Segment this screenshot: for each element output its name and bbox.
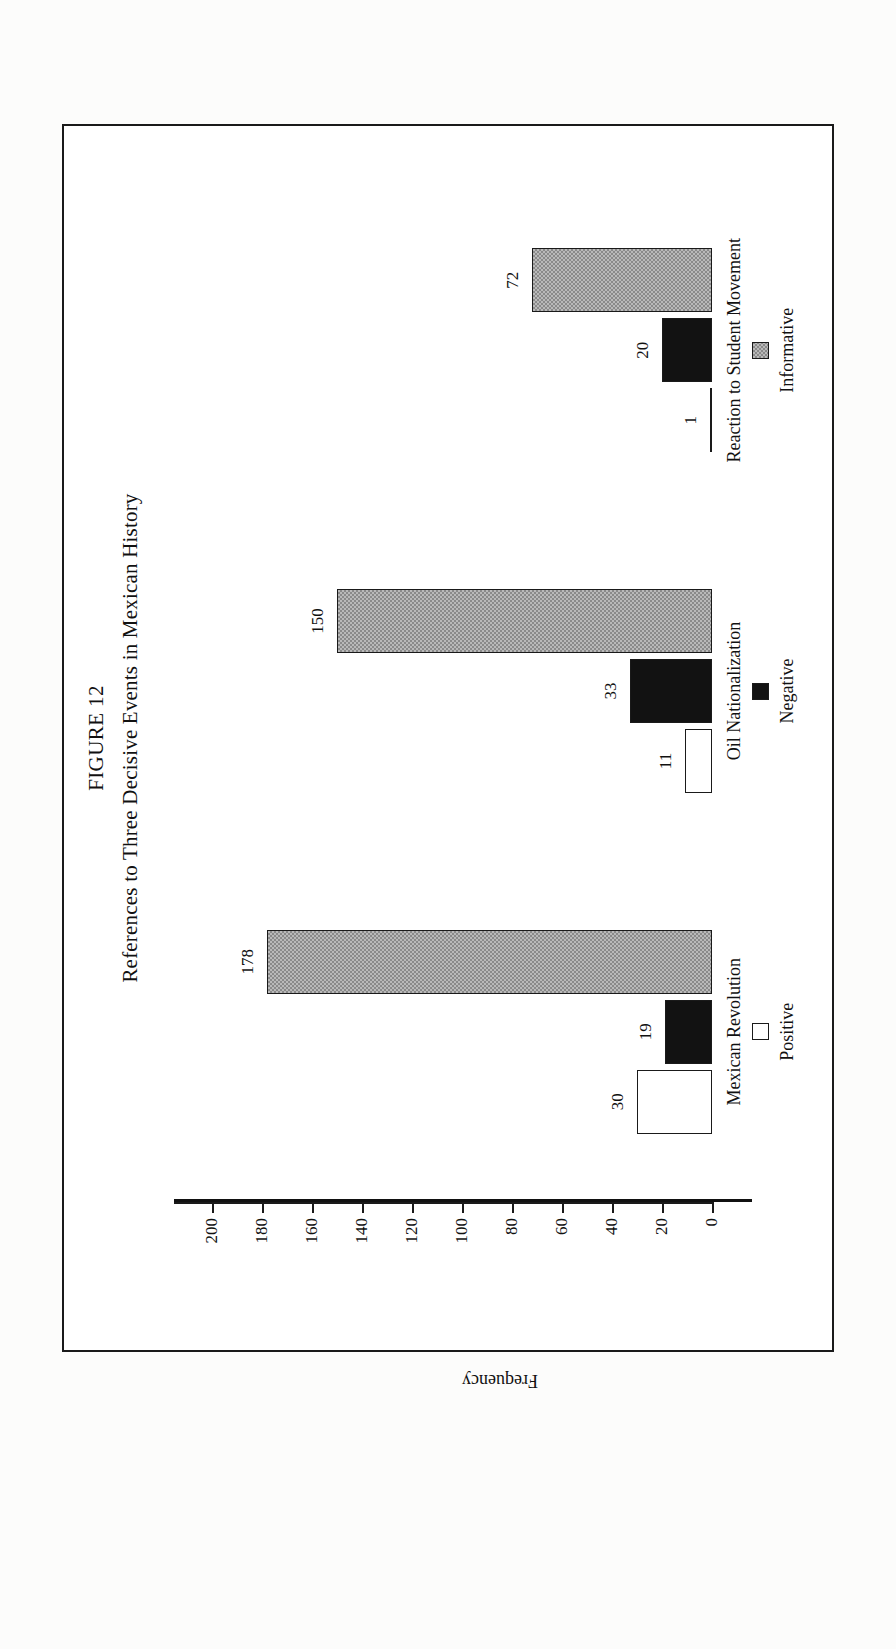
bar-value-label: 30 — [608, 1093, 628, 1110]
axis-tick — [212, 1202, 214, 1213]
figure-number: FIGURE 12 — [84, 124, 109, 1352]
axis-tick — [512, 1202, 514, 1213]
bar-group: 12072Reaction to Student Movement — [212, 180, 712, 521]
axis-tick-label: 140 — [352, 1218, 372, 1244]
legend-label: Positive — [777, 861, 798, 1202]
bar-positive-1: 30 — [637, 1070, 712, 1134]
bar-informative-3: 72 — [532, 248, 712, 312]
bar-positive-3: 1 — [710, 388, 713, 452]
bar-value-label: 11 — [656, 753, 676, 769]
bar-value-label: 178 — [238, 949, 258, 975]
legend-label: Informative — [777, 180, 798, 521]
axis-tick — [312, 1202, 314, 1213]
legend-label: Negative — [777, 521, 798, 862]
axis-tick — [412, 1202, 414, 1213]
bar-value-label: 72 — [503, 272, 523, 289]
bar-value-label: 19 — [636, 1023, 656, 1040]
axis-tick-label: 120 — [402, 1218, 422, 1244]
axis-tick — [712, 1202, 714, 1213]
frequency-axis: 020406080100120140160180200 — [174, 1202, 714, 1298]
axis-tick-label: 160 — [302, 1218, 322, 1244]
figure-title: References to Three Decisive Events in M… — [118, 124, 143, 1352]
bar-value-label: 20 — [633, 342, 653, 359]
legend-item-negative: Negative — [752, 521, 798, 862]
bar-informative-2: 150 — [337, 589, 712, 653]
category-label: Reaction to Student Movement — [724, 238, 745, 462]
axis-tick-label: 180 — [252, 1218, 272, 1244]
legend-swatch-informative-icon — [752, 342, 769, 359]
legend-item-informative: Informative — [752, 180, 798, 521]
y-axis-title: Frequency — [462, 1370, 538, 1391]
legend-item-positive: Positive — [752, 861, 798, 1202]
axis-tick-label: 60 — [552, 1218, 572, 1235]
axis-tick — [462, 1202, 464, 1213]
bar-value-label: 150 — [308, 608, 328, 634]
axis-tick-label: 80 — [502, 1218, 522, 1235]
legend-swatch-negative-icon — [752, 683, 769, 700]
category-label: Mexican Revolution — [724, 958, 745, 1105]
axis-tick-label: 20 — [652, 1218, 672, 1235]
bar-negative-1: 19 — [665, 1000, 713, 1064]
bar-value-label: 33 — [601, 683, 621, 700]
axis-tick-label: 0 — [702, 1218, 722, 1227]
axis-tick-label: 100 — [452, 1218, 472, 1244]
axis-tick — [262, 1202, 264, 1213]
axis-tick — [662, 1202, 664, 1213]
bar-value-label: 1 — [681, 416, 701, 425]
axis-tick-label: 200 — [202, 1218, 222, 1244]
axis-tick — [612, 1202, 614, 1213]
scanned-page: FIGURE 12 References to Three Decisive E… — [0, 0, 896, 1649]
frequency-axis-line — [174, 1202, 714, 1205]
bar-negative-2: 33 — [630, 659, 713, 723]
bar-negative-3: 20 — [662, 318, 712, 382]
plot-area: 020406080100120140160180200 Frequency 30… — [212, 180, 712, 1202]
rotated-chart-container: FIGURE 12 References to Three Decisive E… — [62, 124, 834, 1352]
category-label: Oil Nationalization — [724, 622, 745, 760]
axis-tick — [362, 1202, 364, 1213]
legend-swatch-positive-icon — [752, 1023, 769, 1040]
bar-positive-2: 11 — [685, 729, 713, 793]
bar-informative-1: 178 — [267, 930, 712, 994]
axis-tick — [562, 1202, 564, 1213]
bar-group: 1133150Oil Nationalization — [212, 521, 712, 862]
chart-legend: PositiveNegativeInformative — [752, 180, 812, 1202]
bar-group: 3019178Mexican Revolution — [212, 861, 712, 1202]
axis-tick-label: 40 — [602, 1218, 622, 1235]
figure-border: FIGURE 12 References to Three Decisive E… — [62, 124, 834, 1352]
